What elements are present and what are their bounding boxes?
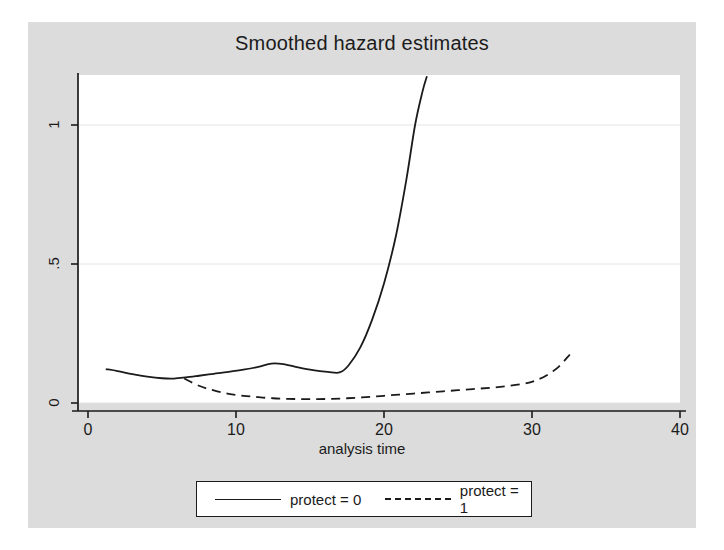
chart-figure: Smoothed hazard estimates analysis time …: [0, 0, 724, 550]
y-tick-label-1: .5: [45, 253, 62, 275]
x-tick-label-4: 40: [655, 421, 705, 439]
y-tick-label-0: 0: [45, 392, 62, 414]
x-tick-label-0: 0: [63, 421, 113, 439]
y-tick-label-2: 1: [45, 114, 62, 136]
legend-item-0[interactable]: protect = 0: [215, 482, 361, 516]
chart-legend: protect = 0 protect = 1: [196, 481, 532, 517]
legend-swatch-dashed-icon: [385, 498, 451, 500]
x-axis-label: analysis time: [28, 440, 696, 457]
x-tick-label-3: 30: [507, 421, 557, 439]
x-tick-label-2: 20: [359, 421, 409, 439]
legend-label-0: protect = 0: [290, 491, 361, 508]
legend-item-1[interactable]: protect = 1: [385, 482, 531, 516]
legend-label-1: protect = 1: [460, 482, 531, 516]
x-tick-label-1: 10: [211, 421, 261, 439]
legend-swatch-solid-icon: [215, 499, 281, 500]
